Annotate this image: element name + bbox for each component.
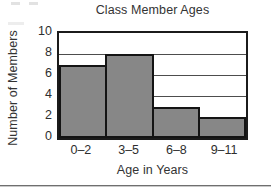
chart-title: Class Member Ages — [57, 3, 248, 17]
histogram-figure: Class Member Ages Number of Members 10 8… — [0, 0, 271, 193]
plot-area — [57, 31, 248, 140]
y-tick-label-2: 2 — [30, 109, 52, 122]
scan-artifact — [29, 2, 38, 5]
y-tick-label-6: 6 — [30, 67, 52, 80]
y-axis-title-wrapper: Number of Members — [3, 23, 21, 153]
scan-artifact — [11, 2, 20, 5]
x-axis-tick-labels: 0–2 3–5 6–8 9–11 — [57, 143, 248, 157]
x-axis-title: Age in Years — [57, 163, 248, 177]
x-tick-label-0-2: 0–2 — [57, 143, 105, 157]
bar-6-8 — [152, 107, 200, 139]
y-axis-tick-labels: 10 8 6 4 2 0 — [30, 31, 52, 140]
y-tick-label-10: 10 — [30, 25, 52, 38]
page-divider-rule-shadow — [0, 186, 271, 187]
y-tick-label-4: 4 — [30, 88, 52, 101]
x-tick-label-6-8: 6–8 — [153, 143, 201, 157]
bar-3-5 — [105, 54, 153, 138]
bar-group — [59, 33, 246, 138]
y-axis-title: Number of Members — [6, 30, 20, 146]
bar-9-11 — [198, 117, 246, 138]
x-tick-label-9-11: 9–11 — [200, 143, 248, 157]
x-tick-label-3-5: 3–5 — [105, 143, 153, 157]
bar-0-2 — [59, 65, 107, 139]
y-tick-label-0: 0 — [30, 130, 52, 143]
y-tick-label-8: 8 — [30, 46, 52, 59]
